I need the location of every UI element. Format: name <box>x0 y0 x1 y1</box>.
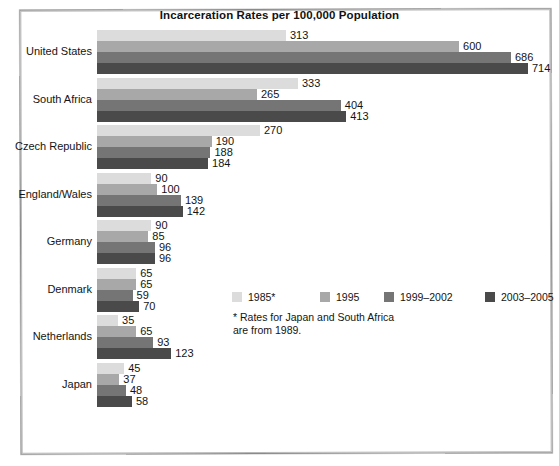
bar-1995-south-africa[interactable] <box>97 89 257 100</box>
bar-1999-2002-denmark[interactable] <box>97 290 133 301</box>
legend-label: 1999–2002 <box>400 291 453 303</box>
legend-item-1995[interactable]: 1995 <box>320 291 359 303</box>
bar-value-label: 184 <box>208 157 230 169</box>
bar-1995-czech-republic[interactable] <box>97 136 212 147</box>
bar-value-label: 123 <box>171 347 193 359</box>
bar-1985-united-states[interactable] <box>97 30 286 41</box>
bar-2003-2005-czech-republic[interactable] <box>97 158 208 169</box>
category-label-south-africa: South Africa <box>0 93 92 105</box>
bar-value-label: 265 <box>257 88 279 100</box>
bar-value-label: 93 <box>153 336 169 348</box>
bar-1999-2002-germany[interactable] <box>97 242 155 253</box>
bar-value-label: 35 <box>118 314 134 326</box>
bar-2003-2005-germany[interactable] <box>97 253 155 264</box>
category-label-england-wales: England/Wales <box>0 188 92 200</box>
bar-value-label: 714 <box>528 62 550 74</box>
legend-item-1999-2002[interactable]: 1999–2002 <box>384 291 453 303</box>
legend-label: 2003–2005 <box>501 291 554 303</box>
bar-1999-2002-england-wales[interactable] <box>97 195 181 206</box>
footnote-line-2: are from 1989. <box>233 324 513 337</box>
legend-item-1985[interactable]: 1985* <box>232 291 275 303</box>
bar-2003-2005-netherlands[interactable] <box>97 348 171 359</box>
bar-value-label: 58 <box>132 395 148 407</box>
chart-footnote: * Rates for Japan and South Africa are f… <box>233 311 513 337</box>
bar-1995-england-wales[interactable] <box>97 184 157 195</box>
bar-1999-2002-united-states[interactable] <box>97 52 511 63</box>
legend-label: 1995 <box>336 291 359 303</box>
bar-2003-2005-south-africa[interactable] <box>97 111 346 122</box>
bar-1985-germany[interactable] <box>97 220 151 231</box>
bar-value-label: 600 <box>459 40 481 52</box>
bar-value-label: 313 <box>286 29 308 41</box>
bar-value-label: 270 <box>260 124 282 136</box>
legend-swatch-icon <box>485 292 495 302</box>
bar-value-label: 100 <box>157 183 179 195</box>
bar-1995-denmark[interactable] <box>97 279 136 290</box>
bar-1995-germany[interactable] <box>97 231 148 242</box>
legend-swatch-icon <box>320 292 330 302</box>
bar-value-label: 70 <box>139 300 155 312</box>
bar-2003-2005-england-wales[interactable] <box>97 206 183 217</box>
bar-1985-denmark[interactable] <box>97 268 136 279</box>
category-label-japan: Japan <box>0 378 92 390</box>
bar-1995-japan[interactable] <box>97 374 119 385</box>
legend-label: 1985* <box>248 291 275 303</box>
bar-value-label: 96 <box>155 252 171 264</box>
plot-area: United States313600686714South Africa333… <box>0 26 559 426</box>
bar-value-label: 142 <box>183 205 205 217</box>
footnote-line-1: * Rates for Japan and South Africa <box>233 311 513 324</box>
bar-1995-netherlands[interactable] <box>97 326 136 337</box>
category-label-denmark: Denmark <box>0 283 92 295</box>
chart-figure: Incarceration Rates per 100,000 Populati… <box>0 0 559 466</box>
bar-2003-2005-united-states[interactable] <box>97 63 528 74</box>
chart-legend: 1985*19951999–20022003–2005 <box>232 291 542 305</box>
bar-1985-czech-republic[interactable] <box>97 125 260 136</box>
legend-swatch-icon <box>384 292 394 302</box>
category-label-czech-republic: Czech Republic <box>0 140 92 152</box>
category-label-germany: Germany <box>0 235 92 247</box>
category-label-netherlands: Netherlands <box>0 330 92 342</box>
category-label-united-states: United States <box>0 45 92 57</box>
bar-1999-2002-czech-republic[interactable] <box>97 147 210 158</box>
bar-1985-england-wales[interactable] <box>97 173 151 184</box>
bar-1995-united-states[interactable] <box>97 41 459 52</box>
chart-title: Incarceration Rates per 100,000 Populati… <box>0 9 559 21</box>
bar-1999-2002-japan[interactable] <box>97 385 126 396</box>
bar-2003-2005-denmark[interactable] <box>97 301 139 312</box>
legend-item-2003-2005[interactable]: 2003–2005 <box>485 291 554 303</box>
legend-swatch-icon <box>232 292 242 302</box>
bar-1985-netherlands[interactable] <box>97 315 118 326</box>
bar-2003-2005-japan[interactable] <box>97 396 132 407</box>
bar-1999-2002-netherlands[interactable] <box>97 337 153 348</box>
bar-value-label: 413 <box>346 110 368 122</box>
bar-value-label: 333 <box>298 77 320 89</box>
bar-value-label: 65 <box>136 325 152 337</box>
bar-1999-2002-south-africa[interactable] <box>97 100 341 111</box>
